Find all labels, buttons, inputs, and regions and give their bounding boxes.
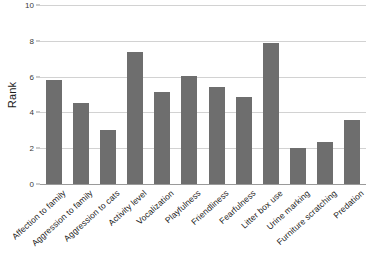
- bar-slot: [339, 5, 366, 184]
- bar-slot: [122, 5, 149, 184]
- bar-friendliness[interactable]: [209, 87, 225, 184]
- bar-slot: [40, 5, 67, 184]
- bar-playfulness[interactable]: [181, 76, 197, 184]
- bar-slot: [176, 5, 203, 184]
- y-tick-label-6: 6: [30, 72, 34, 81]
- bar-affection-to-family[interactable]: [46, 80, 62, 184]
- gridline-0: [40, 184, 366, 185]
- bar-urine-marking[interactable]: [290, 148, 306, 184]
- bar-activity-level[interactable]: [127, 52, 143, 184]
- bar-predation[interactable]: [344, 120, 360, 184]
- y-tick-label-10: 10: [25, 1, 34, 10]
- bar-litter-box-use[interactable]: [263, 43, 279, 184]
- bars-layer: [40, 5, 366, 184]
- bar-aggression-to-cats[interactable]: [100, 130, 116, 184]
- bar-slot: [149, 5, 176, 184]
- bar-slot: [94, 5, 121, 184]
- y-axis-tick-labels: 0246810: [0, 0, 40, 190]
- x-axis-category-labels: Affection to familyAggression to familyA…: [40, 186, 366, 268]
- bar-slot: [312, 5, 339, 184]
- y-tick-label-4: 4: [30, 108, 34, 117]
- bar-slot: [285, 5, 312, 184]
- bar-slot: [230, 5, 257, 184]
- y-tick-label-0: 0: [30, 180, 34, 189]
- y-tick-label-2: 2: [30, 144, 34, 153]
- bar-slot: [203, 5, 230, 184]
- bar-vocalization[interactable]: [154, 92, 170, 184]
- bar-aggression-to-family[interactable]: [73, 103, 89, 184]
- bar-slot: [257, 5, 284, 184]
- bar-fearfulness[interactable]: [236, 97, 252, 184]
- bar-slot: [67, 5, 94, 184]
- bar-chart-figure: Rank 0246810 Affection to familyAggressi…: [0, 0, 372, 268]
- y-tick-label-8: 8: [30, 36, 34, 45]
- bar-furniture-scratching[interactable]: [317, 142, 333, 184]
